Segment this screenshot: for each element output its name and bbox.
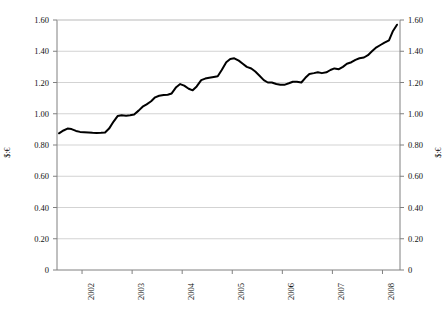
x-axis-tick-label: 2008: [386, 283, 396, 300]
x-axis-tick-label: 2005: [236, 283, 246, 300]
y-axis-tick-label-right: 0.60: [408, 171, 438, 181]
y-axis-tick-label-right: 0.80: [408, 140, 438, 150]
plot-canvas: [0, 0, 447, 312]
y-axis-tick-label-left: 1.00: [19, 109, 49, 119]
y-axis-tick-label-right: 1.40: [408, 46, 438, 56]
y-axis-tick-label-right: 1.60: [408, 15, 438, 25]
y-axis-tick-label-left: 0.20: [19, 234, 49, 244]
y-axis-tick-label-right: 1.20: [408, 78, 438, 88]
x-axis-tick-label: 2006: [286, 283, 296, 300]
y-axis-tick-label-right: 0: [408, 265, 438, 275]
y-axis-tick-label-left: 1.40: [19, 46, 49, 56]
x-axis-tick-label: 2004: [186, 283, 196, 300]
y-axis-tick-label-left: 0.40: [19, 203, 49, 213]
y-axis-tick-label-left: 0: [19, 265, 49, 275]
exchange-rate-line-chart: $:€ $:€ 000.200.200.400.400.600.600.800.…: [0, 0, 447, 312]
x-axis-tick-label: 2007: [336, 283, 346, 300]
y-axis-tick-label-left: 0.80: [19, 140, 49, 150]
y-axis-tick-label-left: 1.20: [19, 78, 49, 88]
x-axis-tick-label: 2002: [86, 283, 96, 300]
data-series-line: [59, 25, 397, 134]
y-axis-tick-label-right: 0.40: [408, 203, 438, 213]
y-axis-tick-label-left: 0.60: [19, 171, 49, 181]
y-axis-tick-label-right: 0.20: [408, 234, 438, 244]
y-axis-tick-label-left: 1.60: [19, 15, 49, 25]
y-axis-tick-label-right: 1.00: [408, 109, 438, 119]
x-axis-tick-label: 2003: [136, 283, 146, 300]
